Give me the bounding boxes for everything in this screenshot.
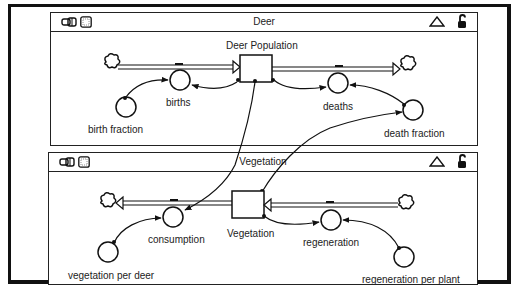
collapse-triangle-icon[interactable]	[429, 16, 445, 27]
deer-window-title: Deer	[51, 16, 477, 27]
vegetation-per-deer-label: vegetation per deer	[68, 270, 154, 281]
regeneration-label: regeneration	[303, 237, 359, 248]
regeneration-per-plant-label: regeneration per plant	[362, 274, 460, 285]
vegetation-title-bar[interactable]: Vegetation	[49, 153, 477, 172]
vegetation-stock-label: Vegetation	[227, 228, 274, 239]
death-fraction-label: death fraction	[384, 128, 445, 139]
collapse-triangle-icon[interactable]	[429, 156, 445, 167]
deer-population-label: Deer Population	[226, 40, 298, 51]
unlock-icon[interactable]	[457, 154, 467, 169]
consumption-label: consumption	[148, 234, 205, 245]
birth-fraction-label: birth fraction	[88, 124, 143, 135]
vegetation-window-title: Vegetation	[49, 156, 477, 167]
deaths-label: deaths	[323, 101, 353, 112]
births-label: births	[166, 97, 190, 108]
deer-title-bar[interactable]: Deer	[51, 13, 477, 32]
unlock-icon[interactable]	[457, 14, 467, 29]
vegetation-window: Vegetation	[48, 152, 478, 285]
